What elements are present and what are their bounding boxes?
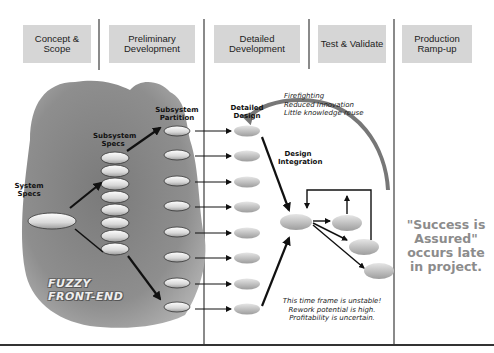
feedback-notes: Firefighting Reduced Innovation Little k…	[284, 92, 394, 118]
note-profitability: Profitability is uncertain.	[270, 314, 394, 323]
subsystem-partition-label: Subsystem Partition	[150, 106, 204, 122]
design-integration-label: Design Integration	[276, 150, 320, 166]
detailed-design-label: Detailed Design	[225, 104, 269, 120]
fuzzy-front-end-label: FUZZY FRONT-END	[48, 277, 138, 303]
design-integration-arrow-top	[262, 137, 289, 210]
system-specs-cloud	[28, 213, 76, 229]
subsystem-specs-label: Subsystem Specs	[88, 132, 138, 148]
note-knowledge-reuse: Little knowledge reuse	[284, 109, 394, 118]
test-node-2	[349, 239, 379, 255]
note-unstable: This time frame is unstable!	[270, 297, 394, 306]
instability-notes: This time frame is unstable! Rework pote…	[270, 297, 394, 323]
success-assured-note: "Success is Assured" occurs late in proj…	[402, 218, 490, 274]
note-reduced-innovation: Reduced Innovation	[284, 101, 394, 110]
test-node-1	[332, 215, 362, 231]
detailed-design-stack	[234, 126, 260, 315]
system-specs-label: System Specs	[4, 182, 54, 198]
design-integration-arrow-bottom	[262, 238, 289, 306]
test-node-3	[364, 263, 394, 279]
bottom-divider	[0, 344, 494, 346]
note-rework: Rework potential is high.	[270, 306, 394, 315]
integration-node	[280, 214, 312, 230]
note-firefighting: Firefighting	[284, 92, 394, 101]
